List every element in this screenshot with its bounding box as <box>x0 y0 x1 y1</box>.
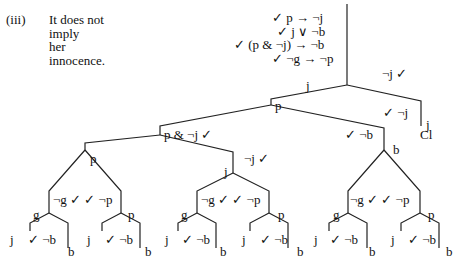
leaf-j: j <box>391 233 395 246</box>
leaf-closed-b: ✓ ¬b <box>105 233 133 246</box>
leaf-closed-b: ✓ ¬b <box>28 233 56 246</box>
leaf-b: b <box>369 245 376 258</box>
label-root-left: j <box>306 79 310 92</box>
leaf-branch <box>102 213 121 231</box>
subtree-right: p <box>278 208 285 221</box>
label-root-right: ¬j ✓ <box>382 67 407 80</box>
closed-marker: Cl <box>420 128 432 141</box>
label-n3-right: ¬j ✓ <box>244 152 269 165</box>
label-n3-right-leaf: j <box>224 165 228 178</box>
leaf-closed-b: ✓ ¬b <box>408 233 436 246</box>
leaf-closed-b: ✓ ¬b <box>260 233 288 246</box>
subtree-left: g <box>33 208 40 221</box>
leaf-b: b <box>220 245 227 258</box>
subtree-split: ¬g ✓ ✓ ¬p <box>201 193 260 206</box>
subtree-left: g <box>181 208 188 221</box>
leaf-j: j <box>87 233 91 246</box>
subtree-split: ¬g ✓ ✓ ¬p <box>350 193 409 206</box>
leaf-closed-b: ✓ ¬b <box>330 233 358 246</box>
subtree-split: ¬g ✓ ✓ ¬p <box>53 193 112 206</box>
leaf-b: b <box>68 245 75 258</box>
leaf-b: b <box>145 245 152 258</box>
subtree-right: p <box>428 208 435 221</box>
leaf-j: j <box>242 233 246 246</box>
leaf-b: b <box>446 245 453 258</box>
leaf-branch <box>401 213 420 231</box>
leaf-closed-b: ✓ ¬b <box>182 233 210 246</box>
label-n1: p <box>275 99 282 112</box>
label-n2r-leaf: b <box>393 143 400 156</box>
leaf-j: j <box>165 233 169 246</box>
subtree-left: g <box>333 208 340 221</box>
label-n2-right: ✓ ¬b <box>345 128 373 141</box>
label-n1-right: ✓ ¬j <box>383 106 408 119</box>
tree-lines <box>0 0 461 268</box>
label-n2: p & ¬j ✓ <box>164 128 212 141</box>
subtree-right: p <box>128 208 135 221</box>
leaf-branch <box>250 213 269 231</box>
subtree-top: p <box>90 152 97 165</box>
leaf-b: b <box>297 245 304 258</box>
leaf-j: j <box>314 233 318 246</box>
branch-n2-left <box>85 135 160 150</box>
leaf-j: j <box>10 233 14 246</box>
